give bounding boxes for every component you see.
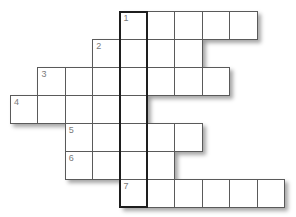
cell-input[interactable] bbox=[66, 68, 92, 95]
crossword-cell[interactable]: 1 bbox=[120, 11, 148, 40]
crossword-cell[interactable] bbox=[92, 67, 120, 96]
crossword-cell[interactable] bbox=[92, 151, 120, 180]
cell-input[interactable] bbox=[93, 152, 119, 179]
crossword-cell[interactable]: 5 bbox=[65, 123, 93, 152]
cell-input[interactable] bbox=[175, 40, 201, 67]
cell-input[interactable] bbox=[148, 124, 174, 151]
crossword-cell[interactable] bbox=[120, 39, 148, 68]
cell-input[interactable] bbox=[175, 12, 201, 39]
cell-input[interactable] bbox=[121, 40, 147, 67]
cell-input[interactable] bbox=[258, 180, 284, 207]
cell-input[interactable] bbox=[148, 40, 174, 67]
cell-input[interactable] bbox=[121, 96, 147, 123]
cell-input[interactable] bbox=[203, 12, 229, 39]
crossword-cell[interactable] bbox=[174, 179, 202, 208]
crossword-cell[interactable]: 3 bbox=[37, 67, 65, 96]
crossword-cell[interactable] bbox=[37, 95, 65, 124]
cell-input[interactable] bbox=[93, 124, 119, 151]
crossword-cell[interactable]: 6 bbox=[65, 151, 93, 180]
cell-input[interactable] bbox=[175, 180, 201, 207]
crossword-cell[interactable] bbox=[174, 123, 202, 152]
cell-input[interactable] bbox=[93, 68, 119, 95]
crossword-cell[interactable] bbox=[147, 67, 175, 96]
cell-input[interactable] bbox=[66, 152, 92, 179]
crossword-cell[interactable] bbox=[229, 11, 257, 40]
cell-input[interactable] bbox=[203, 180, 229, 207]
crossword-cell[interactable] bbox=[202, 67, 230, 96]
cell-input[interactable] bbox=[121, 124, 147, 151]
cell-input[interactable] bbox=[203, 68, 229, 95]
cell-input[interactable] bbox=[66, 124, 92, 151]
cell-input[interactable] bbox=[38, 96, 64, 123]
cell-input[interactable] bbox=[38, 68, 64, 95]
cell-input[interactable] bbox=[148, 180, 174, 207]
cell-input[interactable] bbox=[121, 180, 147, 207]
cell-input[interactable] bbox=[121, 12, 147, 39]
cell-input[interactable] bbox=[11, 96, 37, 123]
crossword-cell[interactable] bbox=[147, 11, 175, 40]
crossword-cell[interactable] bbox=[147, 151, 175, 180]
crossword-cell[interactable] bbox=[229, 179, 257, 208]
crossword-cell[interactable] bbox=[65, 67, 93, 96]
cell-input[interactable] bbox=[66, 96, 92, 123]
cell-input[interactable] bbox=[148, 12, 174, 39]
crossword-cell[interactable]: 7 bbox=[120, 179, 148, 208]
crossword-cell[interactable] bbox=[120, 151, 148, 180]
crossword-cell[interactable] bbox=[120, 67, 148, 96]
cell-input[interactable] bbox=[148, 68, 174, 95]
cell-input[interactable] bbox=[93, 96, 119, 123]
crossword-cell[interactable] bbox=[120, 123, 148, 152]
crossword-cell[interactable] bbox=[174, 11, 202, 40]
crossword-cell[interactable] bbox=[147, 123, 175, 152]
crossword-cell[interactable] bbox=[202, 179, 230, 208]
cell-input[interactable] bbox=[121, 68, 147, 95]
crossword-cell[interactable] bbox=[257, 179, 285, 208]
cell-input[interactable] bbox=[175, 124, 201, 151]
cell-input[interactable] bbox=[148, 152, 174, 179]
crossword-cell[interactable] bbox=[174, 39, 202, 68]
cell-input[interactable] bbox=[230, 180, 256, 207]
crossword-cell[interactable] bbox=[202, 11, 230, 40]
crossword-cell[interactable] bbox=[147, 39, 175, 68]
crossword-cell[interactable]: 4 bbox=[10, 95, 38, 124]
crossword-cell[interactable] bbox=[174, 67, 202, 96]
crossword-cell[interactable] bbox=[65, 95, 93, 124]
cell-input[interactable] bbox=[230, 12, 256, 39]
crossword-cell[interactable] bbox=[92, 123, 120, 152]
crossword-cell[interactable] bbox=[147, 179, 175, 208]
crossword-grid: 1234567 bbox=[0, 0, 296, 217]
crossword-cell[interactable] bbox=[92, 95, 120, 124]
cell-input[interactable] bbox=[175, 68, 201, 95]
cell-input[interactable] bbox=[121, 152, 147, 179]
crossword-cell[interactable] bbox=[120, 95, 148, 124]
cell-input[interactable] bbox=[93, 40, 119, 67]
crossword-cell[interactable]: 2 bbox=[92, 39, 120, 68]
